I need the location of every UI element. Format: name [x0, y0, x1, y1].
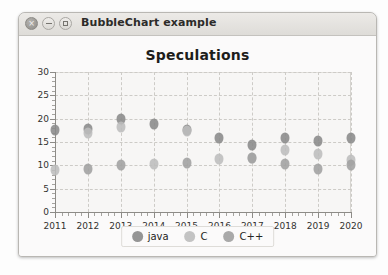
y-tick-label: 30 — [18, 67, 49, 77]
y-tick-minor — [52, 81, 55, 82]
data-bubble[interactable] — [314, 136, 323, 147]
x-tick-minor — [75, 213, 76, 216]
x-tick-minor — [272, 213, 273, 216]
y-tick-minor — [52, 184, 55, 185]
window-controls: × — [25, 17, 72, 30]
legend-item-java[interactable]: java — [132, 231, 169, 242]
y-tick — [50, 72, 55, 73]
x-tick-minor — [141, 213, 142, 216]
x-tick-minor — [325, 213, 326, 216]
gridline-vertical — [187, 72, 188, 212]
y-tick-minor — [52, 207, 55, 208]
data-bubble[interactable] — [314, 148, 323, 159]
x-tick-label: 2019 — [307, 221, 330, 231]
x-tick-minor — [265, 213, 266, 216]
y-tick-minor — [52, 161, 55, 162]
window-title: BubbleChart example — [81, 16, 216, 29]
gridline-horizontal — [55, 95, 351, 96]
legend-swatch-c — [185, 231, 196, 242]
data-bubble[interactable] — [215, 133, 224, 144]
y-tick-minor — [52, 100, 55, 101]
x-tick-label: 2018 — [274, 221, 297, 231]
x-tick-minor — [305, 213, 306, 216]
x-tick-minor — [167, 213, 168, 216]
legend-label-c: C — [201, 231, 208, 242]
data-bubble[interactable] — [347, 160, 356, 171]
x-tick-minor — [344, 213, 345, 216]
data-bubble[interactable] — [281, 158, 290, 169]
x-tick-minor — [292, 213, 293, 216]
data-bubble[interactable] — [281, 132, 290, 143]
y-tick-minor — [52, 137, 55, 138]
x-tick-label: 2020 — [340, 221, 363, 231]
application-window: × BubbleChart example Speculations 05101… — [18, 12, 377, 257]
data-bubble[interactable] — [51, 165, 60, 176]
data-bubble[interactable] — [149, 159, 158, 170]
x-tick-label: 2011 — [44, 221, 67, 231]
y-tick-minor — [52, 203, 55, 204]
data-bubble[interactable] — [248, 152, 257, 163]
data-bubble[interactable] — [182, 157, 191, 168]
gridline-horizontal — [55, 189, 351, 190]
x-tick-minor — [246, 213, 247, 216]
y-tick — [50, 142, 55, 143]
data-bubble[interactable] — [116, 159, 125, 170]
data-bubble[interactable] — [215, 154, 224, 165]
x-tick — [88, 213, 89, 218]
data-bubble[interactable] — [83, 127, 92, 138]
title-bar[interactable]: × BubbleChart example — [19, 13, 376, 36]
data-bubble[interactable] — [248, 140, 257, 151]
x-tick-minor — [298, 213, 299, 216]
y-tick-label: 5 — [18, 184, 49, 194]
data-bubble[interactable] — [51, 125, 60, 136]
close-button[interactable]: × — [25, 17, 38, 30]
y-tick-minor — [52, 198, 55, 199]
y-tick-minor — [52, 109, 55, 110]
x-tick — [351, 213, 352, 218]
x-tick-minor — [114, 213, 115, 216]
x-tick — [252, 213, 253, 218]
x-tick-minor — [127, 213, 128, 216]
maximize-icon — [63, 21, 68, 26]
data-bubble[interactable] — [347, 133, 356, 144]
gridline-horizontal — [55, 72, 351, 73]
data-bubble[interactable] — [149, 119, 158, 130]
legend-swatch-cpp — [224, 231, 235, 242]
legend-label-cpp: C++ — [240, 231, 264, 242]
y-tick-minor — [52, 86, 55, 87]
minimize-icon — [46, 23, 52, 24]
legend-item-c[interactable]: C — [185, 231, 208, 242]
data-bubble[interactable] — [314, 164, 323, 175]
x-tick-minor — [173, 213, 174, 216]
x-tick-minor — [180, 213, 181, 216]
chart-container: Speculations 051015202530 20112012201320… — [19, 36, 376, 256]
data-bubble[interactable] — [83, 163, 92, 174]
x-tick-minor — [233, 213, 234, 216]
legend-swatch-java — [132, 231, 143, 242]
x-tick-minor — [213, 213, 214, 216]
chart-title: Speculations — [19, 47, 376, 63]
x-tick-minor — [206, 213, 207, 216]
x-tick-minor — [160, 213, 161, 216]
y-tick-minor — [52, 147, 55, 148]
x-tick-minor — [200, 213, 201, 216]
x-axis-line — [55, 212, 352, 213]
gridline-horizontal — [55, 165, 351, 166]
data-bubble[interactable] — [116, 121, 125, 132]
x-tick-minor — [101, 213, 102, 216]
maximize-button[interactable] — [59, 17, 72, 30]
x-tick-minor — [193, 213, 194, 216]
x-tick-minor — [279, 213, 280, 216]
legend-label-java: java — [148, 231, 169, 242]
y-tick-label: 25 — [18, 90, 49, 100]
legend-item-cpp[interactable]: C++ — [224, 231, 264, 242]
y-tick — [50, 119, 55, 120]
y-tick-minor — [52, 193, 55, 194]
y-tick-minor — [52, 151, 55, 152]
x-tick — [219, 213, 220, 218]
data-bubble[interactable] — [182, 126, 191, 137]
data-bubble[interactable] — [281, 145, 290, 156]
y-tick-minor — [52, 77, 55, 78]
minimize-button[interactable] — [42, 17, 55, 30]
y-tick-minor — [52, 105, 55, 106]
